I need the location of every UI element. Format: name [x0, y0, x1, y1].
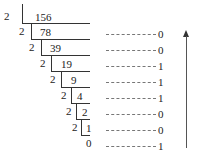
division-bar-vertical-5 [71, 87, 72, 103]
remainder-1: 0 [158, 44, 164, 56]
remainder-7: 1 [158, 140, 164, 152]
remainder-5: 0 [158, 108, 164, 120]
division-bar-horizontal-2 [41, 55, 90, 56]
dash-leader-0 [106, 34, 156, 35]
quotient-0: 156 [35, 11, 52, 23]
division-bar-vertical-1 [31, 23, 32, 39]
quotient-2: 39 [50, 42, 61, 54]
divisor-5: 2 [61, 89, 67, 101]
arrow-shaft [186, 36, 187, 148]
division-bar-horizontal-3 [51, 71, 90, 72]
quotient-3: 19 [61, 58, 72, 70]
division-bar-horizontal-0 [22, 23, 90, 24]
quotient-4: 9 [71, 74, 77, 86]
division-bar-horizontal-5 [71, 103, 90, 104]
dash-leader-1 [106, 50, 156, 51]
divisor-4: 2 [50, 73, 56, 85]
remainder-6: 0 [158, 124, 164, 136]
quotient-7: 1 [86, 122, 92, 134]
quotient-8: 0 [86, 137, 92, 149]
divisor-0: 2 [4, 10, 10, 22]
dash-leader-3 [106, 82, 156, 83]
division-bar-vertical-4 [61, 71, 62, 87]
division-bar-horizontal-1 [31, 39, 90, 40]
quotient-5: 4 [77, 90, 83, 102]
quotient-6: 2 [82, 106, 88, 118]
remainder-4: 1 [158, 92, 164, 104]
remainder-3: 1 [158, 76, 164, 88]
dash-leader-4 [106, 98, 156, 99]
remainder-0: 0 [158, 28, 164, 40]
divisor-3: 2 [40, 57, 46, 69]
divisor-1: 2 [19, 25, 25, 37]
remainder-2: 1 [158, 60, 164, 72]
dash-leader-7 [106, 146, 156, 147]
divisor-2: 2 [29, 41, 35, 53]
division-bar-horizontal-4 [61, 87, 90, 88]
dash-leader-2 [106, 66, 156, 67]
divisor-6: 2 [66, 105, 72, 117]
quotient-1: 78 [40, 26, 51, 38]
dash-leader-6 [106, 130, 156, 131]
divisor-7: 2 [72, 121, 78, 133]
division-bar-vertical-2 [41, 39, 42, 55]
dash-leader-5 [106, 114, 156, 115]
division-bar-vertical-7 [81, 119, 82, 135]
division-bar-vertical-6 [76, 103, 77, 119]
division-bar-vertical-0 [22, 4, 23, 23]
division-bar-horizontal-7 [81, 135, 90, 136]
division-bar-vertical-3 [51, 55, 52, 71]
division-bar-horizontal-6 [76, 119, 90, 120]
